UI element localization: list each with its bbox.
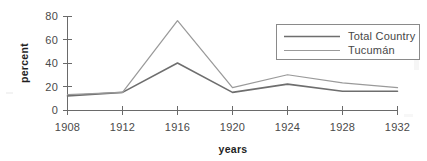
x-tick-label-1908: 1908 — [55, 121, 80, 133]
y-axis-title: percent — [18, 43, 30, 83]
chart-legend: Total Country Tucumán — [277, 25, 420, 60]
y-tick-label-40: 40 — [45, 57, 58, 69]
x-tick-label-1916: 1916 — [165, 121, 190, 133]
x-tick-label-1924: 1924 — [275, 121, 300, 133]
y-tick-labels: 80 60 40 20 0 — [45, 10, 58, 116]
x-tick-label-1920: 1920 — [220, 121, 245, 133]
y-tick-label-20: 20 — [45, 81, 58, 93]
legend-label-total-country: Total Country — [348, 30, 416, 42]
x-tick-label-1912: 1912 — [110, 121, 135, 133]
x-tick-labels: 1908 1912 1916 1920 1924 1928 1932 — [55, 121, 410, 133]
line-chart: 80 60 40 20 0 1908 1912 1916 1920 1924 1… — [0, 0, 427, 161]
x-axis-title: years — [219, 143, 248, 155]
series-line-total-country — [68, 63, 398, 96]
y-tick-label-80: 80 — [45, 10, 58, 22]
legend-label-tucuman: Tucumán — [348, 44, 395, 56]
x-axis — [68, 106, 399, 115]
y-tick-label-60: 60 — [45, 34, 58, 46]
x-tick-label-1932: 1932 — [385, 121, 410, 133]
x-tick-label-1928: 1928 — [330, 121, 355, 133]
y-tick-label-0: 0 — [52, 104, 58, 116]
chart-canvas: 80 60 40 20 0 1908 1912 1916 1920 1924 1… — [0, 0, 427, 161]
